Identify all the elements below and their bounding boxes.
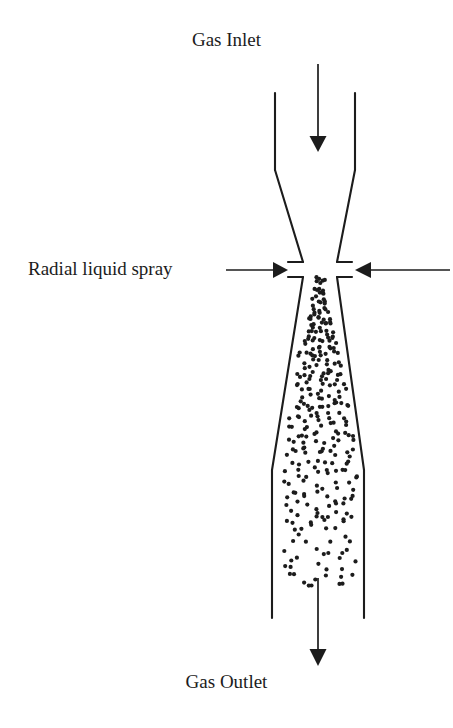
spray-droplet (324, 321, 328, 325)
spray-droplet (307, 584, 311, 588)
spray-droplet (312, 307, 316, 311)
spray-droplet (319, 424, 323, 428)
spray-droplet (282, 549, 286, 553)
spray-droplet (324, 573, 328, 577)
spray-droplet (332, 349, 336, 353)
spray-droplet (295, 383, 299, 387)
spray-droplet (285, 519, 289, 523)
spray-droplet (336, 351, 340, 355)
spray-droplet (320, 374, 324, 378)
spray-droplet (323, 302, 327, 306)
spray-droplet (319, 353, 323, 357)
spray-droplet (306, 404, 310, 408)
spray-droplet (326, 404, 330, 408)
spray-droplet (331, 330, 335, 334)
spray-droplet (321, 382, 325, 386)
spray-droplet (318, 338, 322, 342)
spray-droplet (314, 294, 318, 298)
spray-droplet (317, 358, 321, 362)
spray-droplet (343, 431, 347, 435)
converging-wall-left (275, 170, 303, 262)
spray-droplet (307, 377, 311, 381)
spray-droplet (334, 510, 338, 514)
spray-droplet (300, 434, 304, 438)
spray-droplet (284, 503, 288, 507)
spray-droplet (318, 281, 322, 285)
spray-droplet (342, 382, 346, 386)
spray-droplet (332, 421, 336, 425)
spray-droplet (326, 551, 330, 555)
spray-droplet (335, 486, 339, 490)
spray-droplet (315, 279, 319, 283)
spray-droplet (306, 460, 310, 464)
spray-droplet (287, 438, 291, 442)
spray-droplet (337, 395, 341, 399)
spray-droplet (307, 365, 311, 369)
spray-droplet (337, 390, 341, 394)
spray-droplet (311, 338, 315, 342)
vessel-wall-right (337, 93, 364, 618)
spray-arrow-right (355, 262, 450, 278)
spray-droplet (301, 446, 305, 450)
spray-droplet (344, 423, 348, 427)
spray-droplet (324, 329, 328, 333)
spray-droplet (295, 405, 299, 409)
gas-outlet-label: Gas Outlet (0, 672, 453, 691)
spray-droplet (296, 468, 300, 472)
spray-droplet (283, 469, 287, 473)
spray-droplet (289, 558, 293, 562)
spray-droplet (292, 572, 296, 576)
spray-droplet (318, 450, 322, 454)
spray-droplet (334, 501, 338, 505)
spray-droplet (305, 351, 309, 355)
spray-droplet (324, 567, 328, 571)
spray-droplet (294, 449, 298, 453)
spray-droplet (305, 503, 309, 507)
spray-droplet (283, 564, 287, 568)
spray-droplet (317, 346, 321, 350)
spray-droplet (319, 389, 323, 393)
spray-droplet (302, 494, 306, 498)
spray-droplet (320, 290, 324, 294)
spray-droplet (351, 434, 355, 438)
spray-droplet (316, 418, 320, 422)
spray-droplet (339, 364, 343, 368)
spray-droplet (293, 528, 297, 532)
spray-droplet (317, 316, 321, 320)
spray-droplet (328, 540, 332, 544)
spray-droplet (297, 462, 301, 466)
spray-droplet (315, 484, 319, 488)
spray-droplet (341, 517, 345, 521)
spray-droplet (303, 366, 307, 370)
spray-droplet (339, 575, 343, 579)
spray-droplet (322, 552, 326, 556)
spray-droplet (328, 383, 332, 387)
spray-droplet (334, 480, 338, 484)
spray-droplet (311, 347, 315, 351)
spray-droplet (326, 471, 330, 475)
spray-droplet (298, 375, 302, 379)
spray-droplet (343, 496, 347, 500)
spray-droplet (287, 482, 291, 486)
spray-droplet (292, 440, 296, 444)
spray-droplet (316, 459, 320, 463)
spray-droplet (300, 387, 304, 391)
spray-droplet (311, 370, 315, 374)
spray-droplet (303, 342, 307, 346)
spray-droplet (299, 527, 303, 531)
spray-droplet (319, 378, 323, 382)
spray-droplet (336, 438, 340, 442)
spray-droplet (322, 441, 326, 445)
spray-droplet (291, 539, 295, 543)
spray-droplet (345, 548, 349, 552)
diagram-canvas (0, 0, 453, 728)
gas-inlet-arrow (310, 64, 327, 152)
spray-droplet (348, 454, 352, 458)
spray-droplet (343, 468, 347, 472)
spray-droplet (351, 488, 355, 492)
spray-droplet (345, 462, 349, 466)
spray-droplet (354, 475, 358, 479)
spray-droplet (300, 395, 304, 399)
spray-droplet (343, 535, 347, 539)
spray-droplet (338, 372, 342, 376)
